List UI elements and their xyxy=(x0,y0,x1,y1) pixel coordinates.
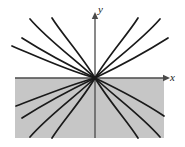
curve-upper-right-steep xyxy=(95,18,138,78)
curve-upper-left-shallow xyxy=(22,38,95,78)
math-figure: x y xyxy=(0,0,185,147)
y-axis-label: y xyxy=(97,3,103,15)
x-axis-arrowhead xyxy=(163,75,170,81)
curve-upper-left-steep xyxy=(52,18,95,78)
curve-upper-right-shallow xyxy=(95,38,168,78)
x-axis-label: x xyxy=(169,71,175,83)
curve-family-plot: x y xyxy=(0,0,185,147)
curve-upper-left-flat xyxy=(12,46,95,78)
